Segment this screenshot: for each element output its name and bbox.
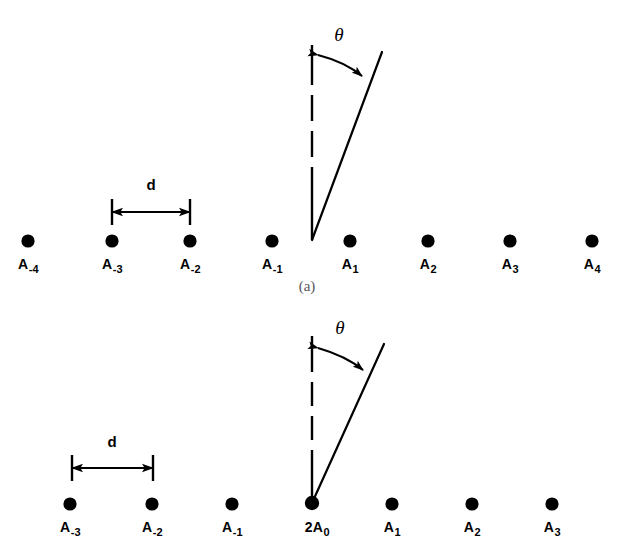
panel-b-element-label: A-3	[60, 519, 80, 535]
panel-a-theta-label: θ	[334, 24, 343, 46]
panel-a-element-label: A-3	[102, 256, 122, 272]
panel-a-element-label: A-2	[180, 256, 200, 272]
figure-container: θ d A-4 A-3 A-2 A-1 A1 A2 A3 A4 (a) θ d …	[0, 0, 632, 557]
panel-a-element-label: A-4	[18, 256, 38, 272]
panel-b-element-label: A1	[384, 519, 400, 535]
panel-b-element-label: A2	[464, 519, 480, 535]
panel-b-element-dot	[63, 497, 76, 510]
panel-b-theta-arc	[318, 348, 363, 370]
panel-a-element-dot	[503, 234, 516, 247]
panel-a-caption: (a)	[299, 278, 316, 295]
panel-a-element-label: A2	[420, 256, 436, 272]
panel-a-element-label: A3	[502, 256, 518, 272]
panel-b-element-dot-center	[305, 496, 319, 510]
panel-a-element-label: A4	[584, 256, 600, 272]
panel-a-element-dot	[585, 234, 598, 247]
panel-a-element-label: A1	[342, 256, 358, 272]
panel-b-element-label: A-1	[222, 519, 242, 535]
panel-a-element-dot	[343, 234, 356, 247]
array-geometry-diagram	[0, 0, 632, 557]
panel-a-element-dot	[105, 234, 118, 247]
panel-b-theta-label: θ	[335, 317, 344, 339]
panel-a-dimension-label: d	[146, 176, 155, 193]
panel-b-ray	[312, 344, 384, 503]
panel-a-element-dot	[183, 234, 196, 247]
panel-b-element-dot	[545, 497, 558, 510]
panel-a-ray	[312, 52, 382, 240]
panel-b-element-dot	[225, 497, 238, 510]
panel-b-element-label: A3	[544, 519, 560, 535]
panel-b-element-dot	[145, 497, 158, 510]
panel-a-element-dot	[421, 234, 434, 247]
panel-b-graphics	[63, 336, 558, 511]
panel-a-element-label: A-1	[262, 256, 282, 272]
panel-b-element-label-center: 2A0	[305, 519, 329, 535]
panel-b-element-dot	[465, 497, 478, 510]
panel-b-element-dot	[385, 497, 398, 510]
panel-a-graphics	[21, 45, 598, 248]
panel-b-dimension-label: d	[107, 433, 116, 450]
panel-a-element-dot	[21, 234, 34, 247]
panel-a-element-dot	[265, 234, 278, 247]
panel-a-theta-arc	[318, 55, 362, 76]
panel-b-element-label: A-2	[142, 519, 162, 535]
